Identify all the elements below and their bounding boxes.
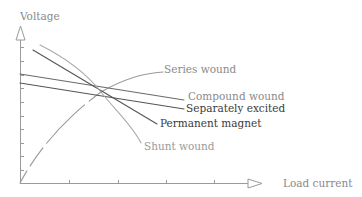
x-ticks bbox=[70, 180, 215, 183]
compound-wound-label: Compound wound bbox=[188, 90, 285, 102]
series-wound-curve-upper bbox=[101, 72, 163, 92]
motor-characteristics-diagram: Voltage Load current Series wound Compou… bbox=[0, 0, 362, 197]
separately-excited-label: Separately excited bbox=[186, 102, 286, 114]
series-wound-label: Series wound bbox=[164, 63, 237, 75]
shunt-wound-label: Shunt wound bbox=[144, 140, 215, 152]
x-axis-arrow-icon bbox=[248, 179, 262, 188]
y-axis-label: Voltage bbox=[19, 10, 60, 22]
series-wound-curve-lower bbox=[20, 92, 101, 183]
permanent-magnet-label: Permanent magnet bbox=[160, 117, 262, 129]
curves bbox=[20, 45, 184, 183]
labels: Voltage Load current Series wound Compou… bbox=[19, 10, 353, 189]
y-axis-arrow-icon bbox=[16, 26, 25, 40]
permanent-magnet-line bbox=[33, 50, 157, 124]
x-axis-label: Load current bbox=[283, 177, 353, 189]
